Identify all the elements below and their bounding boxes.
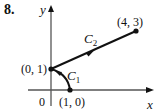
curve-label-c2: C2 [84, 32, 97, 48]
point-0-1 [48, 66, 53, 71]
curve-c2-subscript: 2 [93, 38, 98, 48]
point-label-1-0: (1, 0) [59, 96, 85, 108]
x-axis-arrow-icon [146, 87, 154, 93]
problem-number: 8. [4, 3, 15, 17]
point-1-0 [67, 87, 72, 92]
curve-c1-subscript: 1 [76, 75, 81, 85]
c1-direction-arrow-icon [55, 71, 62, 76]
x-axis-label: x [147, 98, 153, 111]
y-axis-arrow-icon [48, 5, 54, 12]
y-axis-label: y [40, 3, 46, 16]
diagram: 8. y x 0 (0, 1) (1, 0) (4, 3) C1 C2 [0, 0, 164, 112]
curve-label-c1: C1 [67, 69, 80, 85]
point-label-4-3: (4, 3) [117, 16, 143, 28]
point-label-0-1: (0, 1) [21, 63, 47, 75]
curve-c1-name: C [67, 68, 76, 83]
point-4-3 [133, 28, 138, 33]
origin-label: 0 [39, 96, 45, 108]
curve-c2-name: C [84, 31, 93, 46]
